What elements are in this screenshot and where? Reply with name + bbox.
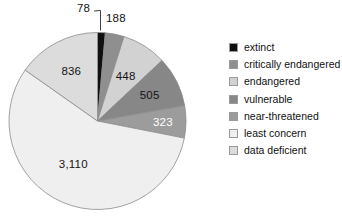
pie-svg <box>0 0 215 224</box>
slice-value-label: 836 <box>61 65 81 77</box>
legend-item-label: extinct <box>244 42 274 53</box>
legend-swatch-icon <box>229 146 238 155</box>
legend-item-vulnerable[interactable]: vulnerable <box>229 91 342 108</box>
legend-item-least-concern[interactable]: least concern <box>229 125 342 142</box>
legend-item-critically-endangered[interactable]: critically endangered <box>229 56 342 73</box>
legend-swatch-icon <box>229 112 238 121</box>
legend-swatch-icon <box>229 95 238 104</box>
chart-legend: extinctcritically endangeredendangeredvu… <box>229 39 342 159</box>
slice-value-label: 78 <box>77 2 90 14</box>
legend-swatch-icon <box>229 77 238 86</box>
legend-swatch-icon <box>229 43 238 52</box>
legend-item-near-threatened[interactable]: near-threatened <box>229 108 342 125</box>
legend-item-endangered[interactable]: endangered <box>229 73 342 90</box>
slice-value-label: 505 <box>140 89 160 101</box>
legend-swatch-icon <box>229 60 238 69</box>
legend-item-label: endangered <box>244 76 300 87</box>
legend-item-data-deficient[interactable]: data deficient <box>229 142 342 159</box>
legend-swatch-icon <box>229 129 238 138</box>
slice-value-label: 448 <box>116 70 136 82</box>
pie-plot-area: 781884485053233,110836 <box>0 0 215 224</box>
legend-item-label: least concern <box>244 128 306 139</box>
slice-value-label: 323 <box>153 116 173 128</box>
legend-item-extinct[interactable]: extinct <box>229 39 342 56</box>
legend-item-label: vulnerable <box>244 94 292 105</box>
leader-line-extinct <box>94 11 101 31</box>
leader-line-group <box>94 11 101 31</box>
legend-item-label: data deficient <box>244 145 306 156</box>
legend-item-label: near-threatened <box>244 111 319 122</box>
slice-value-label: 3,110 <box>59 158 88 170</box>
legend-item-label: critically endangered <box>244 59 340 70</box>
pie-chart-figure: 781884485053233,110836 extinctcritically… <box>0 0 342 224</box>
slice-value-label: 188 <box>106 12 126 24</box>
